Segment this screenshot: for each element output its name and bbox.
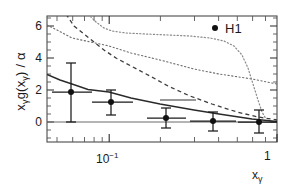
data-marker-1	[68, 89, 74, 95]
plot-canvas	[0, 0, 290, 187]
data-marker-2	[108, 99, 114, 105]
photon-structure-plot: xγg(xγ) / α 6 4 2 0 10−1 1 xγ H1	[0, 0, 290, 187]
data-marker-3	[163, 115, 169, 121]
curve-dotted-upper	[47, 25, 277, 84]
data-marker-5	[256, 119, 262, 125]
curve-dotted-plateau	[88, 14, 266, 119]
curve-dashed-steep	[66, 14, 277, 120]
curve-solid-fit	[47, 75, 277, 122]
data-marker-4	[210, 118, 216, 124]
plot-frame	[47, 16, 277, 142]
